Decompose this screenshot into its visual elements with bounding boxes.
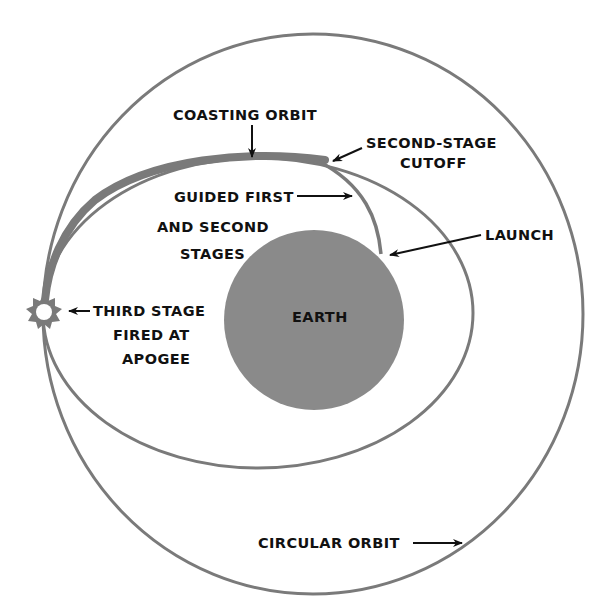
label-third-stage-line1: THIRD STAGE	[93, 303, 205, 319]
label-second-stage-cutoff-line1: SECOND-STAGE	[366, 135, 497, 151]
label-guided-stages-line3: STAGES	[180, 246, 245, 262]
label-third-stage-line2: FIRED AT	[113, 327, 190, 343]
orbit-diagram: COASTING ORBIT SECOND-STAGE CUTOFF GUIDE…	[0, 0, 603, 615]
label-launch: LAUNCH	[485, 227, 554, 243]
label-second-stage-cutoff-line2: CUTOFF	[400, 155, 467, 171]
arrow-second-stage-cutoff	[333, 148, 362, 161]
arrow-launch	[390, 235, 481, 255]
label-circular-orbit: CIRCULAR ORBIT	[258, 535, 400, 551]
label-third-stage-line3: APOGEE	[122, 351, 190, 367]
label-guided-stages-line2: AND SECOND	[157, 219, 269, 235]
third-stage-burst-icon	[26, 294, 62, 329]
label-coasting-orbit: COASTING ORBIT	[173, 107, 317, 123]
label-guided-stages-line1: GUIDED FIRST	[174, 189, 294, 205]
label-earth: EARTH	[292, 309, 348, 325]
